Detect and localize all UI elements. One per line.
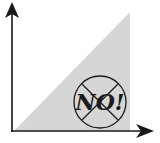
diagram-canvas: NO!: [0, 0, 160, 143]
y-axis: [5, 2, 19, 132]
no-label: NO!: [75, 89, 125, 115]
